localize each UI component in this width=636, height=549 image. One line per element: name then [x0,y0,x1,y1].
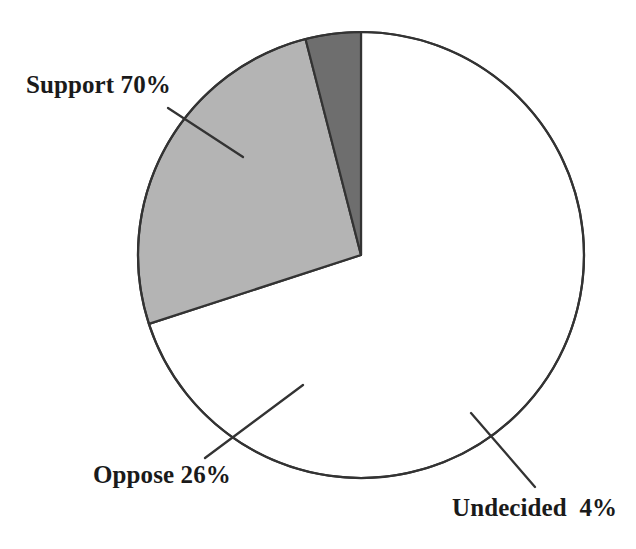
slice-label-support: Support 70% [26,72,171,97]
slice-label-undecided: Undecided 4% [452,495,617,520]
pie-chart: Support 70% Oppose 26% Undecided 4% [0,0,636,549]
slice-label-oppose: Oppose 26% [93,462,231,487]
